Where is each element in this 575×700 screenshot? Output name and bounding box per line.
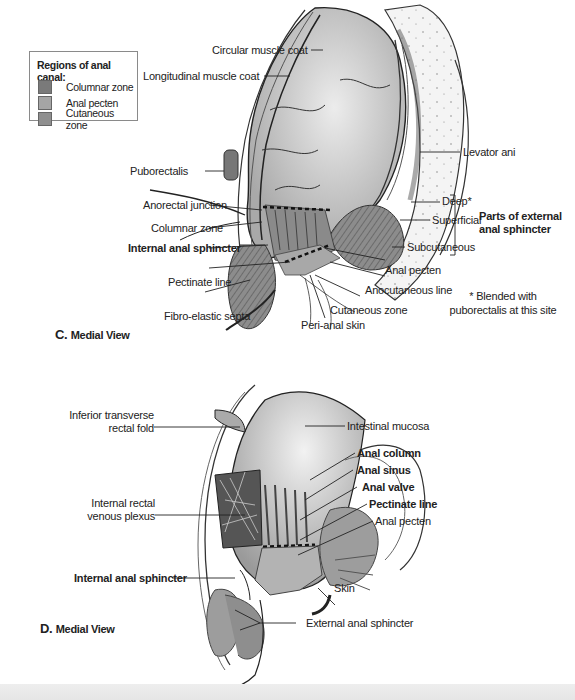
figure-c-letter: C. bbox=[55, 327, 67, 342]
label-pectinate-line-d: Pectinate line bbox=[369, 498, 437, 511]
legend-label: Columnar zone bbox=[66, 81, 133, 93]
label-internal-anal-sphincter-d: Internal anal sphincter bbox=[74, 572, 187, 585]
footnote-line-2: puborectalis at this site bbox=[448, 304, 558, 317]
label-peri-anal-skin: Peri-anal skin bbox=[301, 319, 365, 332]
label-anal-sinus: Anal sinus bbox=[357, 464, 411, 477]
label-internal-rectal-1: Internal rectal bbox=[52, 497, 155, 510]
label-inferior-transverse-1: Inferior transverse bbox=[54, 409, 154, 422]
legend-label: Cutaneous zone bbox=[66, 107, 137, 131]
label-skin: Skin bbox=[334, 582, 355, 595]
label-superficial: Superficial bbox=[432, 214, 481, 227]
label-puborectalis: Puborectalis bbox=[130, 165, 188, 178]
label-fibro-elastic-septa: Fibro-elastic septa bbox=[164, 310, 250, 323]
label-anal-column: Anal column bbox=[357, 447, 421, 460]
label-intestinal-mucosa: Intestinal mucosa bbox=[347, 420, 429, 433]
label-anal-pecten-c: Anal pecten bbox=[385, 264, 441, 277]
label-inferior-transverse-2: rectal fold bbox=[54, 422, 154, 435]
label-anocutaneous-line: Anocutaneous line bbox=[365, 284, 452, 297]
label-circular-muscle-coat: Circular muscle coat bbox=[212, 44, 308, 57]
label-parts-external-sphincter-2: anal sphincter bbox=[479, 223, 551, 236]
swatch-columnar-zone bbox=[38, 80, 52, 94]
label-cutaneous-zone: Cutaneous zone bbox=[330, 304, 407, 317]
label-subcutaneous: Subcutaneous bbox=[407, 241, 475, 254]
legend-item-columnar-zone: Columnar zone bbox=[38, 80, 133, 93]
swatch-cutaneous-zone bbox=[38, 112, 52, 126]
swatch-anal-pecten bbox=[38, 96, 52, 110]
label-pectinate-line-c: Pectinate line bbox=[168, 276, 231, 289]
label-parts-external-sphincter-1: Parts of external bbox=[479, 210, 562, 223]
figure-c-title: Medial View bbox=[71, 329, 130, 341]
label-deep: Deep* bbox=[442, 195, 472, 208]
label-internal-rectal-2: venous plexus bbox=[52, 510, 155, 523]
footnote-line-1: * Blended with bbox=[448, 290, 558, 303]
label-longitudinal-muscle-coat: Longitudinal muscle coat bbox=[143, 70, 259, 83]
figure-d-letter: D. bbox=[40, 621, 52, 636]
label-internal-anal-sphincter-c: Internal anal sphincter bbox=[128, 242, 241, 255]
label-external-anal-sphincter: External anal sphincter bbox=[306, 617, 413, 630]
figure-d-title: Medial View bbox=[56, 623, 115, 635]
figure-c-caption: C. Medial View bbox=[55, 327, 130, 342]
legend-item-cutaneous-zone: Cutaneous zone bbox=[38, 112, 137, 125]
figure-d-caption: D. Medial View bbox=[40, 621, 115, 636]
label-anorectal-junction: Anorectal junction bbox=[143, 199, 227, 212]
bottom-band bbox=[0, 684, 575, 700]
label-columnar-zone: Columnar zone bbox=[151, 222, 223, 235]
label-anal-valve: Anal valve bbox=[362, 481, 414, 494]
legend-box: Regions of anal canal: Columnar zone Ana… bbox=[29, 51, 138, 121]
label-levator-ani: Levator ani bbox=[463, 146, 515, 159]
label-anal-pecten-d: Anal pecten bbox=[375, 515, 431, 528]
